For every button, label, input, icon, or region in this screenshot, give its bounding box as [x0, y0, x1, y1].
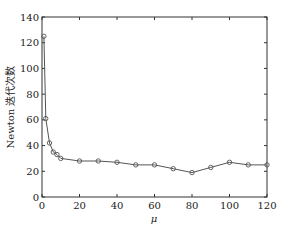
plot-frame — [42, 17, 267, 197]
x-tick-label: 0 — [39, 200, 45, 211]
x-tick-label: 100 — [220, 200, 239, 211]
y-tick-label: 100 — [20, 63, 39, 74]
y-tick-label: 80 — [26, 89, 39, 100]
x-tick-label: 20 — [73, 200, 86, 211]
tick-labels: 020406080100120020406080100120140 — [20, 12, 277, 212]
x-tick-label: 60 — [148, 200, 161, 211]
series-line — [44, 36, 267, 172]
line-chart: 020406080100120020406080100120140 μ Newt… — [0, 0, 287, 231]
data-series — [42, 34, 270, 175]
x-tick-label: 120 — [257, 200, 276, 211]
plot-border — [42, 17, 267, 197]
y-tick-label: 40 — [26, 140, 39, 151]
y-tick-label: 140 — [20, 12, 39, 23]
y-tick-label: 60 — [26, 114, 39, 125]
y-tick-label: 120 — [20, 37, 39, 48]
x-tick-label: 40 — [111, 200, 124, 211]
y-axis-label: Newton 迭代次数 — [4, 66, 16, 149]
x-tick-label: 80 — [186, 200, 199, 211]
y-tick-label: 20 — [26, 166, 39, 177]
x-axis-label: μ — [151, 213, 158, 224]
y-tick-label: 0 — [33, 192, 39, 203]
axis-ticks — [42, 17, 267, 197]
